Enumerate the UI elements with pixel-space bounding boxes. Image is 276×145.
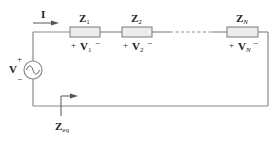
- zn-label: ZN: [236, 12, 248, 26]
- arrow-right-icon: [51, 21, 59, 26]
- source-voltage-label: V: [9, 63, 17, 75]
- v1-label: V1: [80, 40, 92, 54]
- current-label: I: [41, 8, 45, 20]
- arrow-right-icon: [70, 94, 78, 99]
- z2-label: Z2: [131, 12, 142, 26]
- source-plus-sign: +: [17, 54, 22, 64]
- zeq-label: Zeq: [55, 120, 69, 134]
- impedance-z1-box: [70, 27, 100, 37]
- impedance-z2-box: [122, 27, 152, 37]
- v2-label: V2: [132, 40, 144, 54]
- vn-label: VN: [238, 40, 251, 54]
- circuit-diagram: I + V − Z1 + V1 − Z2 + V2 − ZN + VN − Ze…: [0, 0, 276, 145]
- vn-plus-sign: +: [229, 40, 234, 50]
- impedance-zn-box: [227, 27, 258, 37]
- source-minus-sign: −: [17, 74, 22, 84]
- vn-minus-sign: −: [253, 38, 258, 48]
- v2-minus-sign: −: [147, 38, 152, 48]
- z1-label: Z1: [79, 12, 90, 26]
- v1-minus-sign: −: [95, 38, 100, 48]
- v1-plus-sign: +: [71, 40, 76, 50]
- zeq-arrow: [61, 94, 78, 117]
- v2-plus-sign: +: [123, 40, 128, 50]
- ac-voltage-source: [24, 61, 42, 79]
- current-arrow: [33, 21, 59, 26]
